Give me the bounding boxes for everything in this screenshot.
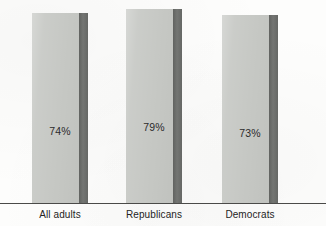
- category-axis: All adults Republicans Democrats: [0, 206, 326, 226]
- plot-area: 74% 79% 73%: [0, 0, 326, 204]
- bar-chart: 74% 79% 73% All adults Republicans Democ…: [0, 0, 326, 226]
- bar-shadow-edge: [269, 15, 278, 204]
- bar-shadow-edge: [79, 13, 88, 204]
- bar-value-label: 73%: [222, 127, 278, 139]
- bar-value-label: 79%: [126, 121, 182, 133]
- bar-all-adults: 74%: [32, 13, 88, 204]
- bar-democrats: 73%: [222, 15, 278, 204]
- bar-shadow-edge: [173, 9, 182, 204]
- bar-republicans: 79%: [126, 9, 182, 204]
- bar-value-label: 74%: [32, 125, 88, 137]
- category-label-democrats: Democrats: [194, 208, 306, 221]
- x-axis-baseline: [0, 203, 326, 204]
